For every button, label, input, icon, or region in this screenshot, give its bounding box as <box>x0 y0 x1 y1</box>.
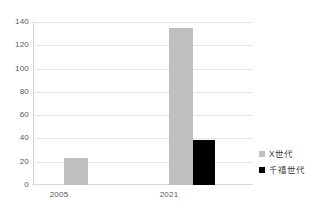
bar-2021-millennial <box>193 140 215 185</box>
gridline-120 <box>33 45 253 46</box>
gridline-140 <box>33 22 253 23</box>
gridline-60 <box>33 115 253 116</box>
legend-swatch-icon-genx <box>259 151 265 157</box>
y-tick-80: 80 <box>0 88 29 96</box>
gridline-100 <box>33 69 253 70</box>
plot-area <box>33 22 253 185</box>
bar-2005-genx <box>64 158 88 185</box>
gridline-40 <box>33 138 253 139</box>
y-tick-20: 20 <box>0 158 29 166</box>
bar-2021-genx <box>169 28 193 185</box>
bar-chart: 140 120 100 80 60 40 20 0 2005 2021 X世代 <box>0 0 329 211</box>
chart-legend: X世代 千禧世代 <box>259 146 329 178</box>
legend-label-genx: X世代 <box>269 149 293 159</box>
x-tick-2021: 2021 <box>144 190 194 199</box>
legend-swatch-icon-millennial <box>259 167 265 173</box>
gridline-80 <box>33 92 253 93</box>
legend-label-millennial: 千禧世代 <box>269 165 305 175</box>
y-tick-0: 0 <box>0 181 29 189</box>
y-tick-120: 120 <box>0 41 29 49</box>
y-tick-40: 40 <box>0 134 29 142</box>
y-tick-140: 140 <box>0 18 29 26</box>
legend-item-genx[interactable]: X世代 <box>259 146 329 162</box>
y-tick-100: 100 <box>0 65 29 73</box>
legend-item-millennial[interactable]: 千禧世代 <box>259 162 329 178</box>
x-tick-2005: 2005 <box>34 190 84 199</box>
y-tick-60: 60 <box>0 111 29 119</box>
y-axis-tick-labels: 140 120 100 80 60 40 20 0 <box>0 22 29 185</box>
